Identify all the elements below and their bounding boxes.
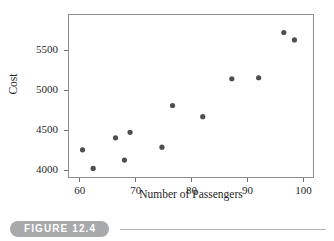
- y-axis-ticks: [64, 50, 68, 170]
- data-point: [256, 75, 261, 80]
- y-tick-label: 5000: [24, 83, 58, 95]
- scatterplot: 4000450050005500 60708090100 Cost Number…: [0, 0, 334, 205]
- data-points-layer: [80, 30, 297, 171]
- y-tick-label: 4000: [24, 163, 58, 175]
- data-point: [127, 130, 132, 135]
- data-point: [91, 166, 96, 171]
- data-point: [170, 103, 175, 108]
- x-axis-title: Number of Passengers: [68, 188, 314, 200]
- data-point: [281, 30, 286, 35]
- y-axis-title: Cost: [7, 73, 19, 95]
- data-point: [292, 37, 297, 42]
- data-point: [159, 145, 164, 150]
- figure-12-4: 4000450050005500 60708090100 Cost Number…: [0, 0, 334, 241]
- data-point: [229, 76, 234, 81]
- figure-number-badge: FIGURE 12.4: [10, 221, 109, 237]
- y-tick-label: 5500: [24, 43, 58, 55]
- data-point: [113, 135, 118, 140]
- data-point: [200, 114, 205, 119]
- caption-divider: [120, 229, 326, 230]
- x-axis-ticks: [80, 178, 304, 182]
- y-tick-label: 4500: [24, 123, 58, 135]
- figure-caption: FIGURE 12.4: [0, 218, 334, 241]
- data-point: [122, 157, 127, 162]
- data-point: [80, 147, 85, 152]
